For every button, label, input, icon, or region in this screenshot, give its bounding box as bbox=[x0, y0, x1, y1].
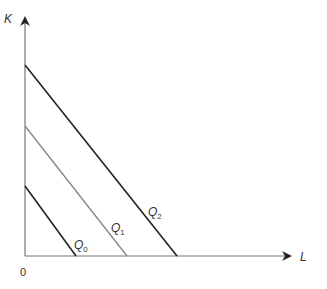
q2-label: Q2 bbox=[148, 206, 162, 221]
isoquant-q2 bbox=[25, 65, 177, 256]
isoquant-q0 bbox=[25, 186, 76, 256]
y-axis-label: K bbox=[4, 13, 12, 25]
q1-label: Q1 bbox=[111, 222, 125, 237]
origin-label: 0 bbox=[20, 267, 26, 278]
isoquant-diagram bbox=[0, 0, 327, 289]
q0-label: Q0 bbox=[74, 239, 88, 254]
x-axis-label: L bbox=[300, 251, 307, 263]
